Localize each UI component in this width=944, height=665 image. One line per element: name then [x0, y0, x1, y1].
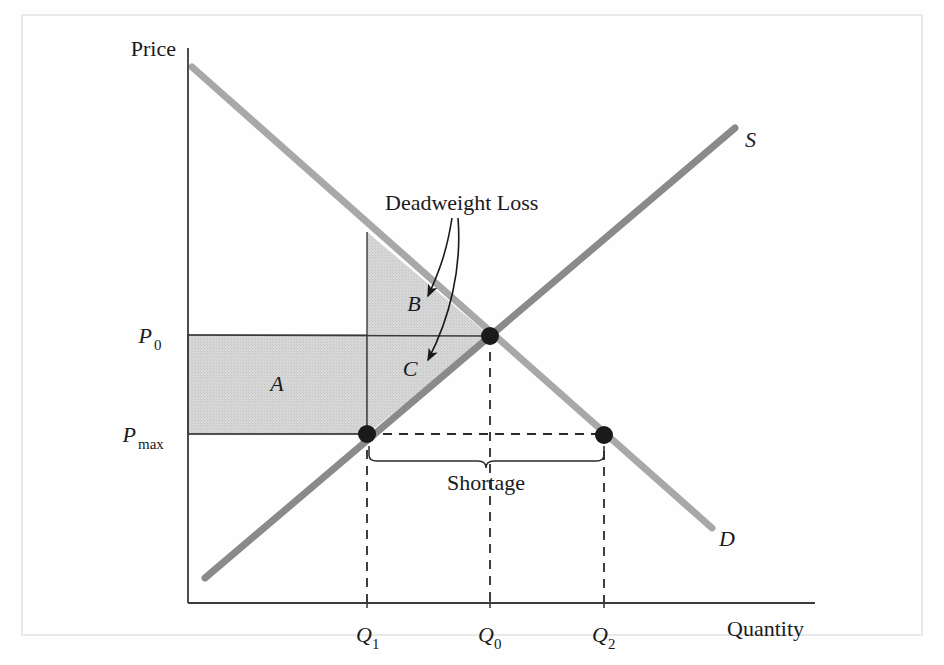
- quantity-label-q2-sub: 2: [608, 636, 616, 652]
- price-label-p0: P 0: [138, 323, 162, 353]
- shortage-label: Shortage: [447, 470, 525, 495]
- point-equilibrium: [481, 327, 499, 345]
- region-label-c: C: [403, 356, 418, 381]
- quantity-label-q2-base: Q: [592, 622, 608, 647]
- quantity-label-q0-base: Q: [478, 622, 494, 647]
- quantity-label-q1: Q 1: [356, 622, 380, 652]
- price-label-p0-sub: 0: [154, 337, 162, 353]
- y-axis-label: Price: [131, 36, 176, 61]
- region-label-a: A: [268, 371, 284, 396]
- price-label-pmax: P max: [122, 422, 165, 452]
- quantity-label-q0: Q 0: [478, 622, 502, 652]
- quantity-label-q1-base: Q: [356, 622, 372, 647]
- region-label-b: B: [407, 291, 420, 316]
- supply-curve-label: S: [745, 127, 756, 152]
- shortage-brace: [369, 446, 604, 468]
- quantity-label-q0-sub: 0: [494, 636, 502, 652]
- point-supply-at-ceiling: [358, 425, 376, 443]
- quantity-label-q2: Q 2: [592, 622, 616, 652]
- point-demand-at-ceiling: [595, 426, 613, 444]
- price-label-pmax-base: P: [122, 422, 136, 447]
- price-label-p0-base: P: [138, 323, 152, 348]
- x-axis-label: Quantity: [727, 616, 804, 641]
- figure-root: Price Quantity S D P 0 P max Q 1 Q 0 Q 2: [0, 0, 944, 665]
- price-label-pmax-sub: max: [138, 436, 164, 452]
- demand-curve-label: D: [718, 526, 735, 551]
- supply-demand-diagram: Price Quantity S D P 0 P max Q 1 Q 0 Q 2: [0, 0, 944, 665]
- region-b-shape: [367, 232, 490, 336]
- quantity-label-q1-sub: 1: [372, 636, 380, 652]
- deadweight-loss-label: Deadweight Loss: [385, 190, 538, 215]
